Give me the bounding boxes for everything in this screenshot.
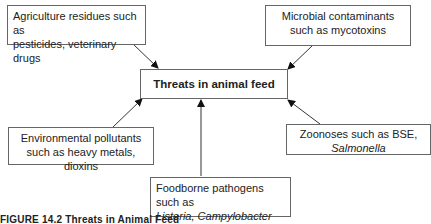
figure-caption: FIGURE 14.2 Threats in Animal Feed [0, 214, 179, 224]
node-agriculture-line2: pesticides, veterinary drugs [13, 37, 140, 65]
node-environmental-line2: such as heavy metals, dioxins [14, 145, 148, 173]
arrow-microbial [288, 45, 313, 69]
node-microbial-line2: such as mycotoxins [271, 23, 405, 37]
node-agriculture-line1: Agriculture residues such as [13, 9, 140, 37]
node-zoonoses-line2: Salmonella [292, 141, 425, 155]
node-microbial-line1: Microbial contaminants [271, 9, 405, 23]
center-node: Threats in animal feed [140, 69, 288, 99]
node-foodborne-line1: Foodborne pathogens such as [156, 181, 285, 209]
node-foodborne: Foodborne pathogens such as Listeria, Ca… [150, 177, 291, 217]
center-node-label: Threats in animal feed [153, 77, 274, 91]
node-microbial: Microbial contaminants such as mycotoxin… [265, 5, 411, 46]
arrow-zoonoses [288, 100, 320, 124]
node-environmental: Environmental pollutants such as heavy m… [8, 127, 154, 165]
node-zoonoses: Zoonoses such as BSE, Salmonella [286, 124, 431, 155]
node-environmental-line1: Environmental pollutants [14, 131, 148, 145]
node-zoonoses-line1: Zoonoses such as BSE, [292, 127, 425, 141]
node-agriculture: Agriculture residues such as pesticides,… [7, 5, 146, 45]
arrow-environmental [113, 99, 142, 127]
